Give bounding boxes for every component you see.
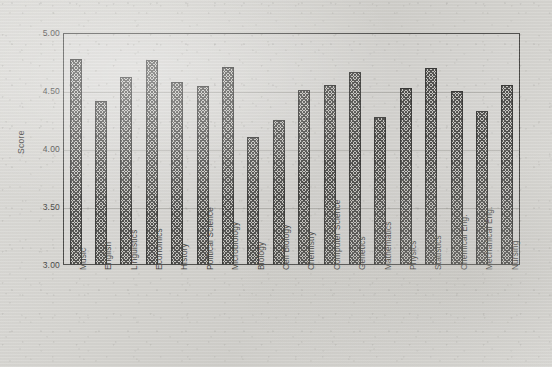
bar xyxy=(95,101,107,265)
bar-slot xyxy=(425,33,437,265)
y-axis-tick-label: 5.00 xyxy=(26,28,60,38)
bar-slot xyxy=(501,33,513,265)
x-axis-tick-label: Political Science xyxy=(206,207,215,270)
x-axis-tick-label: History xyxy=(180,243,189,270)
x-axis-tick-label: Biology xyxy=(257,242,266,270)
y-axis-tick-label: 3.00 xyxy=(26,260,60,270)
x-axis-tick-label: English xyxy=(104,242,113,270)
y-axis-tick-label: 3.50 xyxy=(26,202,60,212)
x-axis-tick-label: Genetics xyxy=(358,236,367,270)
bar xyxy=(171,82,183,265)
y-axis-title: Score xyxy=(16,130,26,154)
bar xyxy=(70,59,82,265)
bar-slot xyxy=(400,33,412,265)
x-axis-tick-label: Economics xyxy=(155,228,164,270)
x-axis-tick-label: Statistics xyxy=(434,235,443,270)
x-axis-tick-label: Computer Science xyxy=(333,199,342,270)
x-axis-tick-label: Nursing xyxy=(511,240,520,270)
bar-slot xyxy=(70,33,82,265)
x-axis-tick-label: Physics xyxy=(409,240,418,270)
y-axis-tick-label: 4.50 xyxy=(26,86,60,96)
bar xyxy=(400,88,412,265)
x-axis-tick-label: Chemical Eng. xyxy=(460,214,469,270)
bar-slot xyxy=(171,33,183,265)
x-axis-tick-labels: MusicEnglishLinguisticsEconomicsHistoryP… xyxy=(63,265,520,365)
x-axis-tick-label: Mechanical Eng. xyxy=(485,206,494,270)
x-axis-tick-label: Linguistics xyxy=(130,230,139,270)
x-axis-tick-label: Cell Biology xyxy=(282,224,291,270)
x-axis-tick-label: Microbiology xyxy=(231,222,240,270)
bar xyxy=(501,85,513,265)
bar-chart-figure: Score 3.003.504.004.505.00 MusicEnglishL… xyxy=(0,0,552,367)
x-axis-tick-label: Music xyxy=(79,248,88,270)
bar-slot xyxy=(247,33,259,265)
y-axis: Score 3.003.504.004.505.00 xyxy=(20,33,60,265)
bar-slot xyxy=(95,33,107,265)
x-axis-tick-label: Chemistry xyxy=(307,231,316,270)
x-axis-tick-label: Mathematics xyxy=(384,221,393,270)
bar-slot xyxy=(349,33,361,265)
y-axis-tick-label: 4.00 xyxy=(26,144,60,154)
